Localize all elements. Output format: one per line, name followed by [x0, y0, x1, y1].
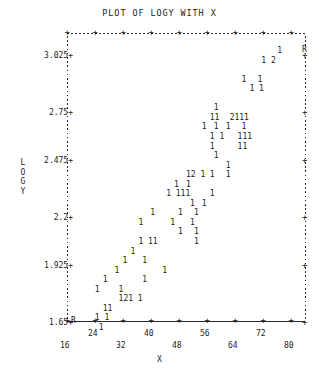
x-axis-title: X: [0, 355, 319, 364]
data-point-cell: 1: [226, 122, 231, 133]
top-axis-rule: [67, 33, 305, 34]
x-tick-mark-top: +: [149, 28, 154, 37]
bottom-axis: +++++++++: [67, 321, 305, 322]
x-tick-mark-bottom: +: [289, 316, 294, 325]
data-point-cell: 1 1: [249, 84, 263, 95]
x-tick-mark-bottom: +: [149, 316, 154, 325]
data-point-cell: 1: [202, 199, 207, 210]
plot-data-area: 11 2111 1111211111111 11111111112 111111…: [67, 46, 307, 334]
x-tick-label: 64: [228, 341, 238, 350]
x-tick-mark-top: +: [233, 28, 238, 37]
data-point-cell: 1 2: [261, 56, 275, 67]
y-tick-mark-right: +: [302, 156, 307, 165]
data-point-cell: 1: [178, 227, 183, 238]
x-tick-mark-bottom: +: [205, 316, 210, 325]
data-point-cell: 1: [226, 170, 231, 181]
x-tick-mark-top: +: [177, 28, 182, 37]
y-tick-mark-right: +: [302, 213, 307, 222]
x-tick-mark-bottom: +: [177, 316, 182, 325]
x-tick-label: 40: [144, 329, 154, 338]
x-tick-mark-bottom: +: [121, 316, 126, 325]
x-tick-mark-top: +: [205, 28, 210, 37]
data-point-cell: 1: [170, 218, 175, 229]
bottom-axis-rule: [67, 321, 305, 322]
x-tick-label: 24: [88, 329, 98, 338]
x-tick-label: 56: [200, 329, 210, 338]
x-tick-label: 72: [256, 329, 266, 338]
data-point-cell: 1: [123, 256, 128, 267]
x-tick-mark-top: +: [289, 28, 294, 37]
data-point-cell: 1: [130, 247, 135, 258]
y-axis-title-char: L: [18, 158, 28, 168]
x-tick-mark-top: +: [261, 28, 266, 37]
data-point-cell: 1: [194, 237, 199, 248]
data-point-cell: 1: [162, 266, 167, 277]
data-point-cell: 1: [210, 170, 215, 181]
data-point-cell: 1: [242, 75, 247, 86]
y-tick-mark-right: +: [302, 51, 307, 60]
data-point-cell: 1 11: [138, 237, 157, 248]
data-point-cell: 1: [210, 189, 215, 200]
data-point-cell: 1: [214, 151, 219, 162]
x-axis-ticks: 244056721632486480: [0, 327, 319, 357]
y-axis-title-char: Y: [18, 187, 28, 197]
y-axis-ticks: 3.025+2.75+2.475+2.2+1.925+1.65+: [0, 33, 73, 321]
data-point-cell: 1: [150, 208, 155, 219]
out-of-range-marker-bottom: R: [71, 317, 76, 325]
y-axis-title-char: G: [18, 177, 28, 187]
data-point-cell: 11: [238, 142, 248, 153]
data-point-cell: 1: [95, 285, 100, 296]
x-tick-label: 16: [60, 341, 70, 350]
data-point-cell: 121 1: [119, 294, 143, 305]
x-tick-label: 48: [172, 341, 182, 350]
data-point-cell: 1: [277, 46, 282, 57]
ascii-scatter-plot: PLOT OF LOGY WITH X +++++++++ 3.025+2.75…: [0, 0, 319, 377]
data-point-cell: 1: [138, 218, 143, 229]
x-tick-label: 80: [284, 341, 294, 350]
data-point-cell: 1: [178, 208, 183, 219]
y-tick-mark-right: +: [302, 261, 307, 270]
x-tick-mark-bottom: +: [233, 316, 238, 325]
x-tick-mark-bottom: +: [261, 316, 266, 325]
x-tick-mark-bottom: +: [65, 316, 70, 325]
y-axis-title: LOGY: [18, 158, 28, 196]
data-point-cell: 1 111: [166, 189, 190, 200]
x-tick-mark-top: +: [93, 28, 98, 37]
top-axis: +++++++++: [67, 33, 305, 34]
data-point-cell: 1: [115, 266, 120, 277]
x-tick-label: 32: [116, 341, 126, 350]
y-tick-mark-right: +: [302, 108, 307, 117]
data-point-cell: 1: [103, 275, 108, 286]
data-point-cell: 1: [142, 275, 147, 286]
x-tick-mark-top: +: [121, 28, 126, 37]
data-point-cell: 1: [142, 256, 147, 267]
data-point-cell: 1: [202, 122, 207, 133]
chart-title: PLOT OF LOGY WITH X: [0, 8, 319, 18]
y-tick-mark-right: +: [302, 318, 307, 327]
x-tick-mark-bottom: +: [93, 316, 98, 325]
y-axis-title-char: O: [18, 168, 28, 178]
